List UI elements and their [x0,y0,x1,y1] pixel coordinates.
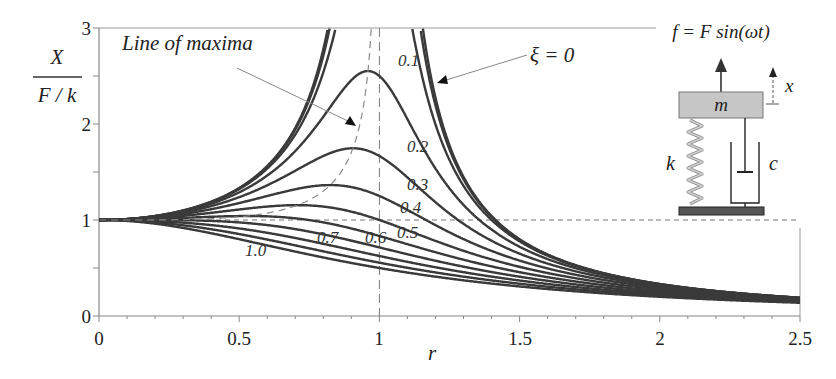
force-label: f = F sin(ωt) [672,21,769,43]
x-tick-label: 2.5 [788,328,812,349]
y-tick-label: 1 [82,210,92,231]
x-tick-label: 0.5 [227,328,251,349]
frequency-response-chart: 0 0.5 1 1.5 2 2.5 0 1 2 3 r X F / k 0.1 … [0,0,836,379]
y-axis-title-denominator: F / k [37,83,77,107]
curve-label-0.3: 0.3 [407,175,428,194]
x-axis-title: r [428,341,437,365]
mass-label: m [714,94,728,115]
curve-xi-0.1 [99,30,335,220]
svg-text:ξ = 0: ξ = 0 [530,43,575,67]
y-tick-label: 2 [82,114,92,135]
curve-label-0.6: 0.6 [365,228,387,247]
curve-xi-0.05 [99,28,330,220]
svg-text:Line of maxima: Line of maxima [121,31,253,55]
curve-xi-0 [99,30,328,220]
curve-label-1.0: 1.0 [245,241,267,260]
arrowhead-icon [437,75,448,84]
displacement-label: x [784,75,794,96]
curve-label-0.1: 0.1 [398,51,419,70]
x-tick-label: 2 [655,328,665,349]
y-tick-label: 3 [82,18,92,39]
x-tick-label: 0 [94,328,104,349]
ground-base [679,207,764,215]
y-axis-title: X F / k [33,45,82,107]
damper-label: c [769,152,778,174]
y-tick-labels: 0 1 2 3 [82,18,92,327]
arrowhead-icon [345,116,356,126]
curve-labels: 0.1 0.2 0.3 0.4 0.5 0.6 0.7 1.0 [245,51,429,260]
y-axis-title-numerator: X [50,45,65,69]
spring-label: k [666,152,676,174]
curve-label-0.2: 0.2 [407,137,429,156]
mass-spring-damper-diagram: f = F sin(ωt) x m k c [656,14,806,228]
curve-label-0.4: 0.4 [400,198,422,217]
curve-label-0.5: 0.5 [397,223,418,242]
x-tick-labels: 0 0.5 1 1.5 2 2.5 [94,328,812,349]
annotation-xi-zero: ξ = 0 [437,43,575,84]
y-tick-label: 0 [82,306,92,327]
x-tick-label: 1 [374,328,384,349]
x-tick-label: 1.5 [508,328,532,349]
curve-label-0.7: 0.7 [317,228,340,247]
